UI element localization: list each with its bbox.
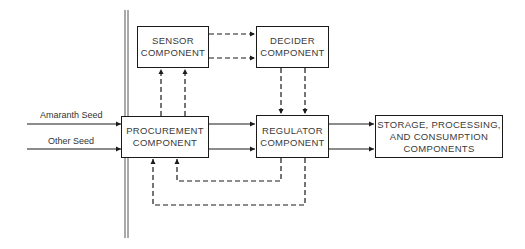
procurement-component-box: PROCUREMENT COMPONENT [121, 116, 209, 158]
sensor-line2: COMPONENT [141, 47, 205, 59]
regulator-line1: REGULATOR [262, 125, 323, 137]
flow-diagram: Amaranth Seed Other Seed SENSOR COMPONEN… [0, 0, 525, 249]
procurement-line1: PROCUREMENT [126, 125, 204, 137]
regulator-line2: COMPONENT [260, 137, 324, 149]
storage-line2: AND CONSUMPTION [390, 131, 488, 143]
storage-line1: STORAGE, PROCESSING, [377, 119, 501, 131]
regulator-component-box: REGULATOR COMPONENT [256, 115, 329, 158]
amaranth-seed-label: Amaranth Seed [40, 110, 103, 120]
sensor-line1: SENSOR [152, 35, 194, 47]
decider-line1: DECIDER [270, 35, 315, 47]
storage-line3: COMPONENTS [403, 143, 474, 155]
procurement-line2: COMPONENT [133, 137, 197, 149]
feedback-loop-inner [177, 158, 281, 181]
other-seed-label: Other Seed [48, 136, 94, 146]
storage-processing-consumption-box: STORAGE, PROCESSING, AND CONSUMPTION COM… [375, 115, 503, 158]
decider-line2: COMPONENT [260, 47, 324, 59]
decider-component-box: DECIDER COMPONENT [256, 26, 329, 68]
sensor-component-box: SENSOR COMPONENT [137, 26, 209, 68]
